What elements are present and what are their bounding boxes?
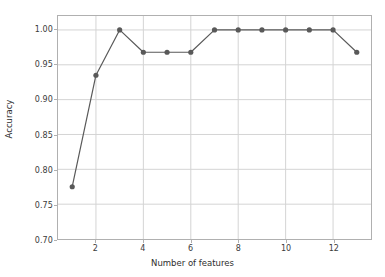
x-axis-title: Number of features [0, 258, 385, 268]
y-tick-label: 0.95 [35, 60, 53, 69]
x-tick-label: 10 [281, 244, 291, 253]
x-tick-mark [95, 240, 96, 243]
data-point-marker [70, 184, 75, 189]
x-tick-mark [191, 240, 192, 243]
x-tick-label: 6 [188, 244, 193, 253]
x-tick-mark [334, 240, 335, 243]
data-point-marker [188, 50, 193, 55]
x-tick-mark [143, 240, 144, 243]
series-line [72, 30, 357, 187]
data-point-marker [354, 50, 359, 55]
data-point-marker [93, 73, 98, 78]
x-tick-label: 8 [236, 244, 241, 253]
data-point-marker [236, 27, 241, 32]
data-point-marker [330, 27, 335, 32]
y-tick-label: 0.90 [35, 95, 53, 104]
y-tick-label: 0.75 [35, 200, 53, 209]
chart-figure: 0.700.750.800.850.900.951.00 24681012 Nu… [0, 0, 385, 277]
x-tick-label: 12 [329, 244, 339, 253]
x-tick-mark [238, 240, 239, 243]
data-point-marker [141, 50, 146, 55]
x-tick-label: 4 [140, 244, 145, 253]
data-point-marker [117, 27, 122, 32]
data-point-marker [212, 27, 217, 32]
x-tick-mark [286, 240, 287, 243]
data-point-marker [307, 27, 312, 32]
y-tick-label: 0.85 [35, 130, 53, 139]
x-tick-label: 2 [93, 244, 98, 253]
plot-area [57, 15, 372, 240]
data-series-accuracy [58, 16, 371, 239]
y-tick-label: 0.80 [35, 165, 53, 174]
y-tick-label: 1.00 [35, 25, 53, 34]
y-tick-mark [54, 240, 57, 241]
x-axis-tick-labels: 24681012 [0, 244, 385, 258]
data-point-marker [283, 27, 288, 32]
y-axis-title: Accuracy [4, 69, 14, 169]
data-point-marker [164, 50, 169, 55]
data-point-marker [259, 27, 264, 32]
